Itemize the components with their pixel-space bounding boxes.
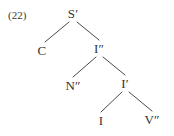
tree-edge-ibar2-nbar2 bbox=[73, 57, 96, 77]
tree-edge-ibar1-i bbox=[101, 92, 122, 112]
syntax-tree-figure: (22) S′CI″N″I′IV″ bbox=[0, 0, 174, 136]
tree-node-ibar1: I′ bbox=[121, 77, 129, 90]
tree-edge-ibar1-vbar2 bbox=[129, 92, 152, 111]
tree-node-c: C bbox=[38, 44, 47, 57]
tree-edge-ibar2-ibar1 bbox=[103, 57, 125, 75]
tree-node-i: I bbox=[99, 114, 104, 127]
tree-node-ibar2: I″ bbox=[94, 42, 104, 55]
tree-node-vbar2: V″ bbox=[144, 113, 159, 126]
tree-edge-root-c bbox=[45, 22, 69, 42]
tree-node-nbar2: N″ bbox=[65, 79, 80, 92]
tree-edge-root-ibar2 bbox=[77, 22, 99, 40]
tree-node-root: S′ bbox=[68, 7, 78, 20]
